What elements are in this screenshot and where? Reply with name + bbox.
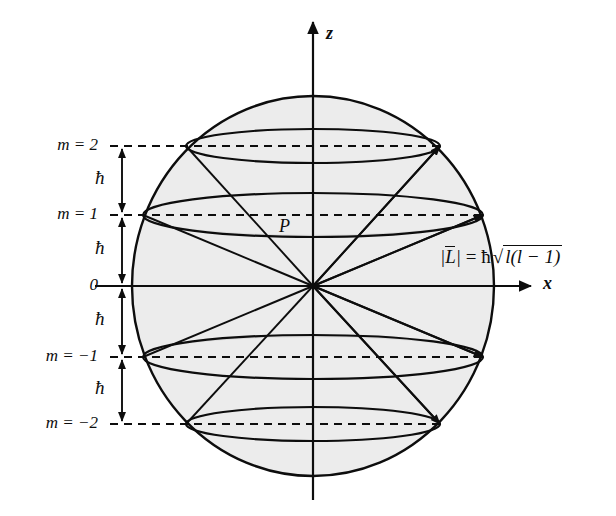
angular-momentum-magnitude-formula: |L| = ħ√l(l − 1)	[440, 245, 562, 266]
x-axis-label: x	[543, 274, 552, 292]
radical-sign: √	[493, 246, 503, 267]
hbar-spacing-label-4: ħ	[95, 378, 105, 397]
z-axis-label: z	[326, 24, 333, 42]
level-label-m2: m = 2	[0, 136, 98, 153]
hbar-spacing-label-1: ħ	[95, 168, 105, 187]
level-label-m1: m = 1	[0, 205, 98, 222]
formula-sqrt: √l(l − 1)	[491, 245, 562, 266]
angular-momentum-quantization-figure: m = 2 m = 1 0 m = −1 m = −2 ħ ħ ħ ħ z x …	[0, 0, 616, 516]
level-label-m-minus-2: m = −2	[0, 414, 98, 431]
formula-radicand: l(l − 1)	[503, 245, 562, 266]
hbar-spacing-label-2: ħ	[95, 238, 105, 257]
formula-vector-L: L	[445, 247, 456, 266]
level-label-m0: 0	[0, 276, 98, 293]
formula-abs-close: |	[456, 246, 461, 267]
formula-hbar: ħ	[481, 246, 491, 267]
hbar-spacing-label-3: ħ	[95, 309, 105, 328]
level-label-m-minus-1: m = −1	[0, 347, 98, 364]
point-p-label: P	[279, 217, 290, 235]
formula-equals: =	[466, 246, 477, 267]
